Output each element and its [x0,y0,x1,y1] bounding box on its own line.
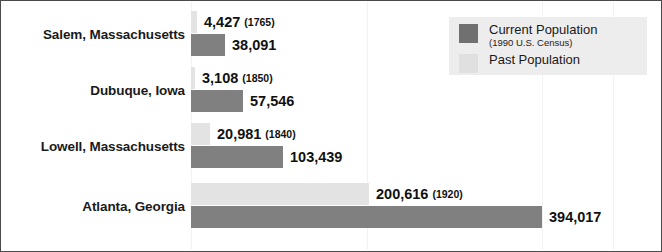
bar-past-salem[interactable] [191,11,197,33]
bar-group-atlanta: 200,616 (1920) 394,017 [191,181,661,231]
category-label-atlanta: Atlanta, Georgia [1,199,185,214]
category-label-salem: Salem, Massachusetts [1,27,185,42]
bar-value-current-dubuque: 57,546 [250,94,294,109]
legend-swatch-icon-current [459,24,478,43]
legend-entry-current-population[interactable]: Current Population (1990 U.S. Census) [459,23,639,48]
chart-legend: Current Population (1990 U.S. Census) Pa… [449,17,647,75]
bar-value-past-salem: 4,427 [204,15,240,30]
bar-current-atlanta[interactable] [191,206,542,228]
legend-entry-past-population[interactable]: Past Population [459,53,639,73]
bar-group-lowell: 20,981 (1840) 103,439 [191,121,661,171]
bar-year-past-lowell: (1840) [265,128,295,140]
category-label-lowell: Lowell, Massachusetts [1,139,185,154]
legend-label-past: Past Population [489,53,580,67]
bar-track-current-dubuque: 57,546 [191,90,661,112]
bar-value-past-atlanta: 200,616 [376,187,428,202]
bar-current-lowell[interactable] [191,146,283,168]
bar-value-past-lowell: 20,981 [217,127,261,142]
bar-current-salem[interactable] [191,34,225,56]
category-label-dubuque: Dubuque, Iowa [1,83,185,98]
legend-sublabel-current: (1990 U.S. Census) [489,38,597,48]
legend-swatch-icon-past [459,54,478,73]
legend-text-past: Past Population [489,53,580,67]
bar-past-atlanta[interactable] [191,183,369,205]
chart-row-atlanta: Atlanta, Georgia 200,616 (1920) 394,017 [1,181,661,231]
bar-track-past-lowell: 20,981 (1840) [191,123,661,145]
population-comparison-chart: Salem, Massachusetts 4,427 (1765) 38,091… [0,0,662,252]
bar-current-dubuque[interactable] [191,90,243,112]
bar-past-dubuque[interactable] [191,67,195,89]
bar-track-current-lowell: 103,439 [191,146,661,168]
bar-year-past-dubuque: (1850) [242,72,272,84]
legend-label-current: Current Population [489,23,597,37]
chart-row-lowell: Lowell, Massachusetts 20,981 (1840) 103,… [1,121,661,171]
bar-year-past-atlanta: (1920) [432,188,462,200]
bar-track-past-atlanta: 200,616 (1920) [191,183,661,205]
legend-text-current: Current Population (1990 U.S. Census) [489,23,597,48]
bar-value-current-atlanta: 394,017 [549,210,601,225]
bar-past-lowell[interactable] [191,123,210,145]
bar-year-past-salem: (1765) [244,16,274,28]
bar-value-past-dubuque: 3,108 [202,71,238,86]
bar-track-current-atlanta: 394,017 [191,206,661,228]
bar-value-current-lowell: 103,439 [290,150,342,165]
bar-value-current-salem: 38,091 [232,38,276,53]
